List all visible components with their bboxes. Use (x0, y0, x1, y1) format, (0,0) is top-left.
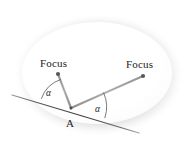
diagram-canvas (0, 0, 188, 151)
point-a-label: A (66, 118, 74, 129)
ellipse-focus-diagram: Focus Focus A α α (0, 0, 188, 151)
focus-point-left-dot (56, 72, 60, 76)
focus-point-right-dot (141, 74, 145, 78)
focus-label-right: Focus (126, 59, 153, 70)
angle-label-alpha-right: α (95, 105, 100, 115)
angle-label-alpha-left: α (46, 89, 51, 99)
focus-label-left: Focus (40, 58, 67, 69)
tangent-point-a-dot (70, 107, 73, 110)
